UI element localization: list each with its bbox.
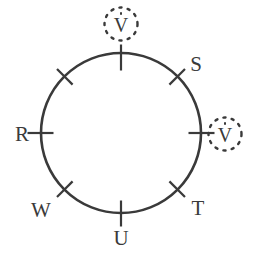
- node-label-s: S: [190, 54, 202, 75]
- vector-glyph-right: V: [218, 125, 232, 145]
- circle-diagram: R S T U W V V: [0, 0, 259, 260]
- node-label-w: W: [31, 200, 51, 221]
- vector-dot-accent-top: [120, 12, 123, 15]
- node-label-u: U: [113, 228, 128, 249]
- vector-marker-top: V: [102, 5, 140, 43]
- node-label-r: R: [15, 124, 29, 145]
- vector-glyph-top: V: [114, 15, 128, 35]
- vector-dot-accent-right: [224, 122, 227, 125]
- tick-marks: [28, 45, 215, 227]
- vector-marker-right: V: [206, 115, 244, 153]
- node-label-t: T: [192, 198, 205, 219]
